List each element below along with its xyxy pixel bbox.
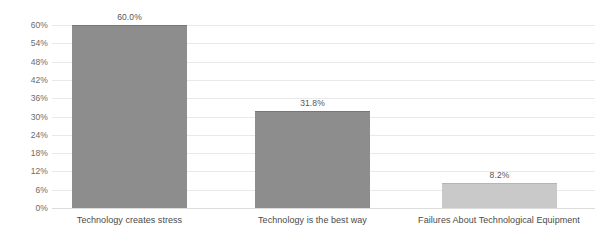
- x-axis-category-label: Technology creates stress: [54, 215, 205, 225]
- y-tick-label: 42%: [0, 75, 48, 85]
- y-tick-label: 36%: [0, 93, 48, 103]
- y-tick-label: 48%: [0, 57, 48, 67]
- y-tick-label: 60%: [0, 20, 48, 30]
- y-tick-label: 6%: [0, 185, 48, 195]
- bar-chart: 60% 54% 48% 42% 36% 30% 24% 18% 12% 6% 0…: [0, 0, 607, 237]
- x-axis-category-label: Technology is the best way: [237, 215, 388, 225]
- y-tick-label: 54%: [0, 38, 48, 48]
- y-tick-label: 18%: [0, 148, 48, 158]
- axis-baseline: [52, 208, 595, 209]
- bar-value-label: 31.8%: [255, 98, 370, 108]
- plot-area: [52, 25, 595, 208]
- bar-technology-creates-stress[interactable]: [72, 25, 187, 208]
- bar-value-label: 60.0%: [72, 12, 187, 22]
- y-tick-label: 12%: [0, 166, 48, 176]
- x-axis-category-label: Failures About Technological Equipment: [409, 215, 589, 225]
- bar-failures-about-technological-equipment[interactable]: [442, 183, 557, 208]
- y-tick-label: 24%: [0, 130, 48, 140]
- bar-technology-is-the-best-way[interactable]: [255, 111, 370, 208]
- y-tick-label: 30%: [0, 112, 48, 122]
- y-tick-label: 0%: [0, 203, 48, 213]
- bar-value-label: 8.2%: [442, 170, 557, 180]
